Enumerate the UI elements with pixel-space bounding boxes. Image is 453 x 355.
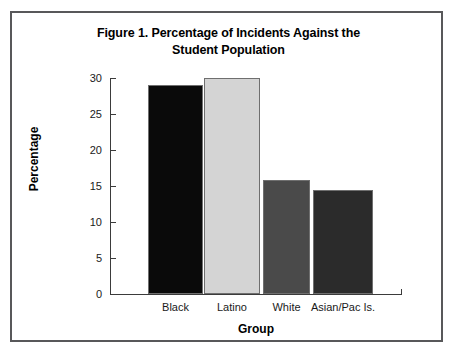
y-axis-title: Percentage [27, 99, 41, 219]
y-axis-tick [110, 186, 116, 187]
y-axis-tick [110, 78, 116, 79]
y-axis-tick-label: 0 [66, 289, 102, 300]
y-axis-tick-label: 25 [66, 109, 102, 120]
y-axis-tick [110, 222, 116, 223]
y-axis-tick [110, 258, 116, 259]
y-axis-tick-label: 30 [66, 73, 102, 84]
bar-black [148, 85, 203, 294]
bar-asian-pac-is [313, 190, 373, 294]
y-axis-tick [110, 114, 116, 115]
y-axis-tick-label: 10 [66, 217, 102, 228]
x-axis-title: Group [110, 322, 402, 336]
bar-latino [204, 78, 260, 294]
y-axis-tick [110, 150, 116, 151]
figure-frame: Figure 1. Percentage of Incidents Agains… [10, 11, 443, 342]
y-axis-tick-label: 5 [66, 253, 102, 264]
plot-area: 051015202530 BlackLatinoWhiteAsian/Pac I… [12, 13, 445, 344]
x-axis-end-tick [401, 289, 402, 295]
x-axis-line [110, 294, 402, 295]
y-axis-tick [110, 294, 116, 295]
x-axis-tick-label: Asian/Pac Is. [283, 301, 403, 313]
bar-white [263, 180, 310, 294]
y-axis-tick-label: 15 [66, 181, 102, 192]
y-axis-tick-label: 20 [66, 145, 102, 156]
